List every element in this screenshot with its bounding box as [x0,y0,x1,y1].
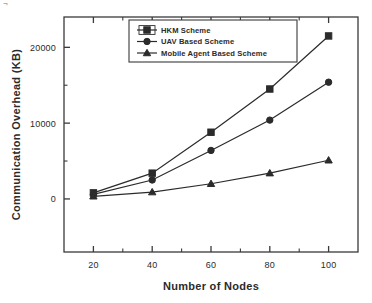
scan-artifact-glyph: ¬ [3,0,13,8]
data-point-triangle [325,157,332,163]
legend-label: UAV Based Scheme [161,37,234,46]
data-point-square [149,170,155,176]
x-tick-label: 80 [265,260,275,270]
y-tick-label: 10000 [30,119,56,129]
legend: HKM SchemeUAV Based SchemeMobile Agent B… [129,20,297,62]
data-point-circle [325,79,331,85]
legend-label: Mobile Agent Based Scheme [161,49,267,58]
data-point-circle [149,177,155,183]
data-point-square [325,33,331,39]
legend-marker-circle [144,38,150,44]
x-axis-title: Number of Nodes [163,280,259,292]
x-tick-label: 20 [88,260,98,270]
data-point-circle [208,147,214,153]
legend-label: HKM Scheme [161,26,211,35]
x-tick-label: 60 [206,260,216,270]
legend-entry-1[interactable]: HKM Scheme [137,26,211,35]
x-tick-label: 40 [147,260,157,270]
data-point-square [267,86,273,92]
series-line [93,160,328,196]
series-line [93,82,328,194]
y-tick-label: 20000 [30,43,56,53]
legend-marker-square [144,27,150,33]
line-chart: 2040608010001000020000Number of NodesCom… [0,0,372,303]
y-tick-label: 0 [51,194,56,204]
x-tick-label: 100 [321,260,337,270]
series-3 [90,157,333,199]
data-point-circle [267,117,273,123]
data-point-square [208,129,214,135]
y-axis-title: Communication Overhead (KB) [10,49,22,220]
chart-figure: ¬ 2040608010001000020000Number of NodesC… [0,0,372,303]
